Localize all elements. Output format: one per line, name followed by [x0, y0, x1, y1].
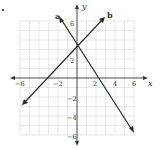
- y-tick-neg4: −4: [67, 114, 77, 122]
- coordinate-plane: a b y x −6 −2 2 4 6 6 2 −2 −4 −6: [0, 0, 160, 150]
- line-b-label: b: [107, 10, 113, 20]
- y-tick-neg6: −6: [67, 133, 77, 141]
- x-tick-4: 4: [113, 80, 117, 88]
- y-axis-down-arrow-icon: [75, 141, 79, 146]
- y-axis-up-arrow-icon: [75, 4, 79, 9]
- line-a-label: a: [55, 11, 60, 21]
- y-tick-2: 2: [70, 57, 74, 65]
- y-axis-label: y: [81, 2, 87, 11]
- axes: [10, 4, 148, 146]
- x-axis-label: x: [148, 79, 153, 88]
- x-tick-neg6: −6: [15, 80, 25, 88]
- y-tick-neg2: −2: [67, 95, 77, 103]
- x-tick-2: 2: [93, 80, 97, 88]
- y-tick-6: 6: [70, 20, 74, 28]
- x-tick-neg2: −2: [53, 80, 63, 88]
- item-marker: [2, 9, 4, 11]
- x-tick-6: 6: [132, 80, 136, 88]
